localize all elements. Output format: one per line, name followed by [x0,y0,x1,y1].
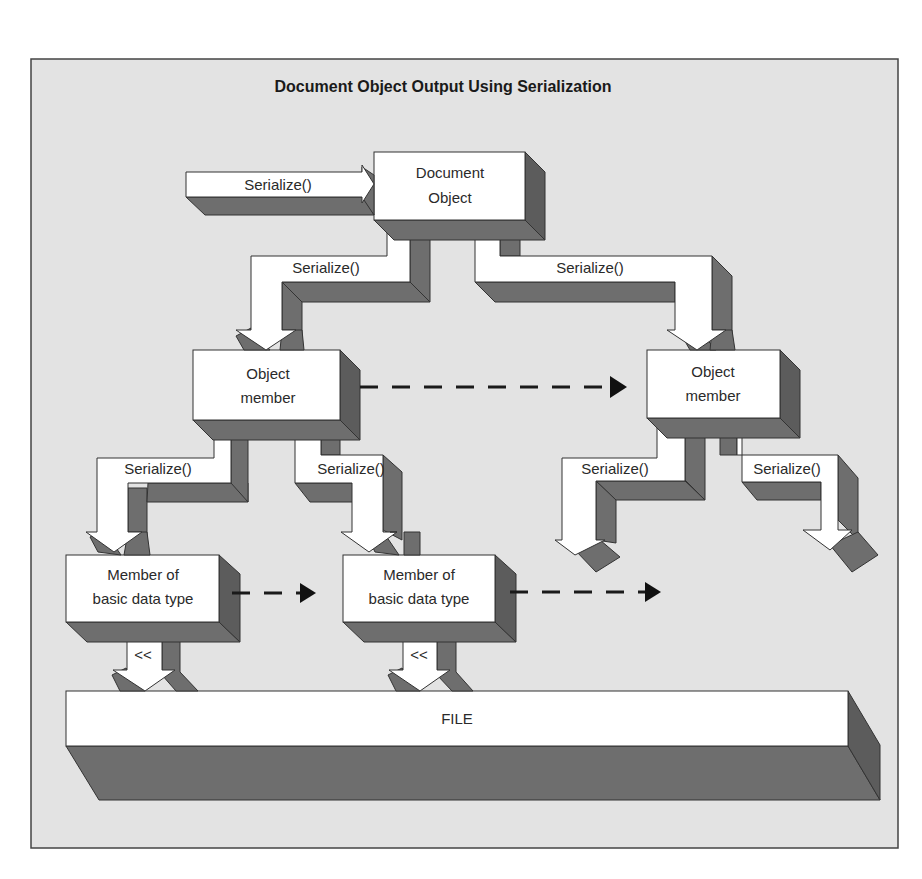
object-member-left-line2: member [240,389,295,406]
object-member-right-line2: member [685,387,740,404]
doc-to-right-label: Serialize() [556,259,624,276]
right-to-out1-label: Serialize() [581,460,649,477]
right-to-out2-label: Serialize() [753,460,821,477]
left-to-basic2-label: Serialize() [317,460,385,477]
basic-member-2-line1: Member of [383,566,456,583]
object-member-node-left: Object member [193,350,360,440]
arrow-input-to-document: Serialize() [186,165,374,215]
basic2-to-file-label: << [410,646,428,663]
basic-member-1-line2: basic data type [93,590,194,607]
document-object-node: Document Object [374,152,545,240]
basic-member-1-line1: Member of [107,566,180,583]
input-label: Serialize() [244,176,312,193]
object-member-node-right: Object member [647,350,800,438]
object-member-left-line1: Object [246,365,290,382]
basic-member-2-line2: basic data type [369,590,470,607]
document-object-line2: Object [428,189,472,206]
basic1-to-file-label: << [134,646,152,663]
file-node: FILE [66,691,880,800]
serialization-diagram: Document Object Output Using Serializati… [0,0,922,879]
doc-to-left-label: Serialize() [292,259,360,276]
diagram-title: Document Object Output Using Serializati… [275,78,612,95]
left-to-basic1-label: Serialize() [124,460,192,477]
basic-member-node-2: Member of basic data type [343,555,516,642]
file-label: FILE [441,710,473,727]
basic-member-node-1: Member of basic data type [66,555,240,642]
object-member-right-line1: Object [691,363,735,380]
document-object-line1: Document [416,164,485,181]
